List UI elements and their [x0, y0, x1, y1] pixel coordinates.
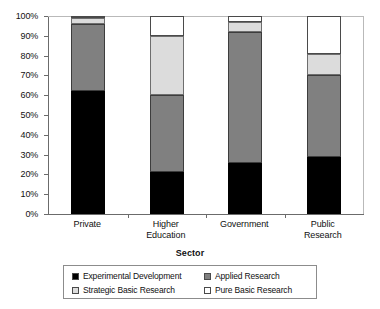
y-axis-tick-labels: 100% 90% 80% 70% 60% 50% 40% 30% 20% 10%…: [0, 0, 44, 232]
bar-segment-public-research-applied-research: [307, 75, 341, 156]
bar-government: [228, 16, 262, 214]
plot-right-border: [363, 16, 364, 214]
y-tick-label-30: 30%: [21, 150, 38, 159]
bar-public-research: [307, 16, 341, 214]
bar-segment-government-strategic-basic-research: [228, 22, 262, 32]
chart-legend: Experimental Development Applied Researc…: [63, 265, 317, 299]
bar-segment-public-research-strategic-basic-research: [307, 54, 341, 76]
x-axis-label-private-line-1: Private: [48, 219, 127, 230]
y-tick-label-40: 40%: [21, 130, 38, 139]
y-tick-label-80: 80%: [21, 51, 38, 60]
legend-label-strategic-basic-research: Strategic Basic Research: [83, 285, 175, 295]
plot-area: 100% 90% 80% 70% 60% 50% 40% 30% 20% 10%…: [0, 0, 380, 232]
x-axis-label-government: Government: [205, 219, 284, 230]
x-axis-label-public-research-line-1: Public: [284, 219, 363, 230]
bar-group-higher-education: [128, 16, 207, 214]
bar-segment-higher-education-applied-research: [150, 95, 184, 172]
bar-higher-education: [150, 16, 184, 214]
x-axis-label-higher-education: Higher Education: [127, 219, 206, 241]
bar-group-public-research: [285, 16, 364, 214]
bar-group-government: [206, 16, 285, 214]
bars-area: [49, 16, 363, 214]
y-tick-label-50: 50%: [21, 111, 38, 120]
x-axis-label-higher-education-line-2: Education: [127, 230, 206, 241]
legend-item-applied-research[interactable]: Applied Research: [204, 271, 280, 281]
legend-item-strategic-basic-research[interactable]: Strategic Basic Research: [72, 285, 175, 295]
x-axis-separator-3: [285, 214, 286, 218]
bar-private: [71, 16, 105, 214]
legend-grid: Experimental Development Applied Researc…: [64, 266, 316, 298]
y-tick-label-90: 90%: [21, 31, 38, 40]
legend-item-experimental-development[interactable]: Experimental Development: [72, 271, 181, 281]
bar-segment-private-experimental-development: [71, 91, 105, 214]
x-axis-label-private: Private: [48, 219, 127, 230]
legend-swatch-experimental-development-icon: [72, 273, 79, 280]
bar-segment-private-pure-basic-research: [71, 16, 105, 18]
y-tick-label-10: 10%: [21, 190, 38, 199]
bar-segment-government-pure-basic-research: [228, 16, 262, 22]
y-tick-label-20: 20%: [21, 170, 38, 179]
bar-segment-government-applied-research: [228, 32, 262, 163]
bar-segment-private-applied-research: [71, 24, 105, 91]
x-axis-label-public-research: Public Research: [284, 219, 363, 241]
stacked-bar-chart: 100% 90% 80% 70% 60% 50% 40% 30% 20% 10%…: [0, 0, 380, 309]
bar-segment-public-research-experimental-development: [307, 157, 341, 214]
bar-group-private: [49, 16, 128, 214]
x-axis-title: Sector: [0, 248, 380, 258]
x-axis-label-higher-education-line-1: Higher: [127, 219, 206, 230]
bar-segment-government-experimental-development: [228, 163, 262, 214]
legend-swatch-pure-basic-research-icon: [204, 287, 211, 294]
legend-item-pure-basic-research[interactable]: Pure Basic Research: [204, 285, 292, 295]
bar-segment-higher-education-strategic-basic-research: [150, 36, 184, 95]
y-tick-label-70: 70%: [21, 71, 38, 80]
bar-segment-higher-education-pure-basic-research: [150, 16, 184, 36]
bar-segment-higher-education-experimental-development: [150, 172, 184, 214]
x-axis-label-government-line-1: Government: [205, 219, 284, 230]
x-axis-separator-1: [128, 214, 129, 218]
legend-label-experimental-development: Experimental Development: [83, 271, 181, 281]
x-axis-separator-2: [206, 214, 207, 218]
y-tick-label-0: 0%: [25, 210, 38, 219]
legend-label-applied-research: Applied Research: [215, 271, 280, 281]
legend-swatch-strategic-basic-research-icon: [72, 287, 79, 294]
x-axis-category-labels: Private Higher Education Government Publ…: [48, 219, 364, 247]
x-axis-label-public-research-line-2: Research: [284, 230, 363, 241]
bar-segment-public-research-pure-basic-research: [307, 16, 341, 54]
y-tick-label-60: 60%: [21, 91, 38, 100]
legend-swatch-applied-research-icon: [204, 273, 211, 280]
bar-segment-private-strategic-basic-research: [71, 18, 105, 24]
y-tick-label-100: 100%: [16, 12, 38, 21]
legend-label-pure-basic-research: Pure Basic Research: [215, 285, 292, 295]
